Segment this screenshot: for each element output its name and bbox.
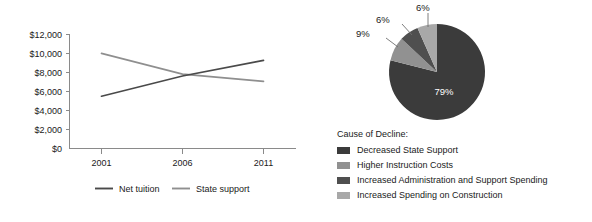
legend-swatch-increased-construction [337,192,350,199]
y-tick-label-4000: $4,000 [34,106,62,116]
pie-label-6-percent-b: 6% [416,2,430,13]
legend-swatch-decreased-state-support [337,147,350,154]
y-tick-label-2000: $2,000 [34,125,62,135]
legend-item-increased-construction[interactable]: Increased Spending on Construction [337,188,587,203]
legend-item-decreased-state-support[interactable]: Decreased State Support [337,143,587,158]
y-tick-label-0: $0 [52,144,62,154]
pie-chart-svg: 79% 9% 6% 6% [300,0,592,130]
leader-line-6-percent-a [402,24,412,35]
x-tick-label-2006: 2006 [172,158,192,168]
legend-title: Cause of Decline: [337,128,587,140]
series-line-state-support [102,53,264,81]
y-tick-label-8000: $8,000 [34,68,62,78]
series-line-net-tuition [102,60,264,96]
legend-label-increased-construction: Increased Spending on Construction [357,190,503,201]
line-chart-svg: $12,000 $10,000 $8,000 $6,000 $4,000 $2,… [0,0,300,222]
pie-label-9-percent: 9% [356,28,370,39]
pie-label-6-percent-a: 6% [376,14,390,25]
x-tick-label-2001: 2001 [91,158,111,168]
legend-swatch-increased-administration [337,177,350,184]
legend-label-net-tuition: Net tuition [119,184,160,194]
y-tick-label-12000: $12,000 [29,30,62,40]
legend-label-higher-instruction-costs: Higher Instruction Costs [357,160,453,171]
y-tick-label-10000: $10,000 [29,49,62,59]
pie-chart-panel: 79% 9% 6% 6% Cause of Decline: Decreased… [300,0,592,222]
legend-label-increased-administration: Increased Administration and Support Spe… [357,175,548,186]
x-tick-label-2011: 2011 [254,158,273,168]
legend-item-higher-instruction-costs[interactable]: Higher Instruction Costs [337,158,587,173]
pie-label-79-percent: 79% [434,86,454,97]
leader-line-9-percent [386,38,398,47]
legend-label-decreased-state-support: Decreased State Support [357,145,458,156]
figure-two-charts: $12,000 $10,000 $8,000 $6,000 $4,000 $2,… [0,0,592,222]
legend-item-increased-administration[interactable]: Increased Administration and Support Spe… [337,173,587,188]
line-chart-legend: Net tuition State support [95,184,250,194]
legend-swatch-higher-instruction-costs [337,162,350,169]
legend-label-state-support: State support [196,184,250,194]
pie-chart-legend: Cause of Decline: Decreased State Suppor… [337,128,587,203]
line-chart-panel: $12,000 $10,000 $8,000 $6,000 $4,000 $2,… [0,0,300,222]
y-tick-label-6000: $6,000 [34,87,62,97]
